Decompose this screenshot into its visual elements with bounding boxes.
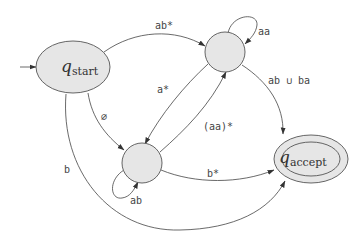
edge-label-start-middle: ∅ xyxy=(101,111,107,122)
edge-label-top-accept: ab ∪ ba xyxy=(268,75,310,86)
edge-start-to-accept: b xyxy=(64,94,285,230)
gnfa-diagram: ab* aa a* (aa)* ∅ ab ∪ ba b* ab b xyxy=(0,0,349,245)
state-start: qstart xyxy=(36,41,110,93)
edge-top-to-middle: a* xyxy=(145,64,208,144)
edge-start-to-top: ab* xyxy=(104,20,205,52)
state-accept: qaccept xyxy=(274,135,348,183)
state-top xyxy=(205,32,245,72)
edge-top-to-accept: ab ∪ ba xyxy=(242,65,310,134)
edge-label-middle-top: (aa)* xyxy=(203,121,233,132)
edge-label-start-top: ab* xyxy=(155,20,173,31)
edge-middle-to-top: (aa)* xyxy=(160,72,233,152)
edge-label-middle-self: ab xyxy=(130,195,142,206)
state-middle xyxy=(122,143,162,183)
edge-label-middle-accept: b* xyxy=(207,168,219,179)
edge-label-top-middle: a* xyxy=(157,84,169,95)
edge-label-start-accept: b xyxy=(64,164,70,175)
edge-label-top-self: aa xyxy=(258,26,270,37)
edge-start-to-middle: ∅ xyxy=(88,93,124,150)
edge-middle-to-accept: b* xyxy=(161,168,274,181)
